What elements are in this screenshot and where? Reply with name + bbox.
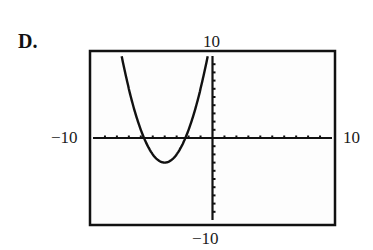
graph-window: [0, 0, 373, 250]
